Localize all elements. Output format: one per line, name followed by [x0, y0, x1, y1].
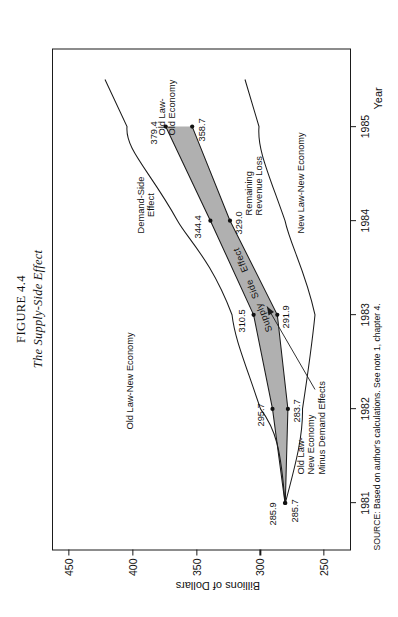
y-tick-250: 250 [318, 558, 330, 576]
x-axis-label: Year [372, 87, 384, 109]
point-label-285-7: 285.7 [290, 499, 300, 522]
point-label-295-7: 295.7 [256, 403, 266, 426]
point-label-285-9: 285.9 [268, 502, 278, 525]
y-tick-400: 400 [127, 558, 139, 576]
y-tickmark-400 [132, 549, 133, 555]
figure-page: FIGURE 4.4 The Supply-Side Effect [0, 0, 398, 617]
y-axis-label: Billions of Dollars [176, 579, 260, 591]
y-tickmark-450 [68, 549, 69, 555]
point-label-329-0: 329.0 [234, 211, 244, 234]
x-tick-1983: 1983 [359, 303, 371, 326]
x-tickmark-1982 [350, 408, 356, 409]
x-tickmark-1981 [350, 502, 356, 503]
figure-number: FIGURE 4.4 [14, 0, 29, 617]
annotation-old-law-new-economy-minus-demand-effects: Old Law- New Economy Minus Demand Effect… [296, 381, 327, 474]
annotation-new-law-new-economy: New Law-New Economy [296, 132, 306, 233]
y-tick-450: 450 [63, 558, 75, 576]
x-tickmark-1985 [350, 125, 356, 126]
y-tickmark-350 [196, 549, 197, 555]
rotated-figure-canvas: FIGURE 4.4 The Supply-Side Effect [0, 0, 398, 617]
y-tickmark-250 [323, 549, 324, 555]
source-note: SOURCE: Based on author's calculations. … [372, 303, 382, 550]
annotation-demand-side-effect: Demand-Side Effect [136, 176, 157, 233]
point-label-283-7: 283.7 [292, 399, 302, 422]
x-tickmark-1983 [350, 314, 356, 315]
annotation-old-law-old-economy: Old Law- Old Economy [157, 79, 178, 135]
plot-area: Old Law-New Economy Demand-Side Effect O… [52, 48, 351, 550]
point-label-344-4: 344.4 [193, 215, 203, 238]
x-tick-1985: 1985 [359, 114, 371, 137]
x-tickmark-1984 [350, 220, 356, 221]
x-tick-1984: 1984 [359, 209, 371, 232]
x-tick-1981: 1981 [359, 491, 371, 514]
figure-title: The Supply-Side Effect [31, 0, 46, 617]
point-label-291-9: 291.9 [281, 305, 291, 328]
y-tick-350: 350 [191, 558, 203, 576]
figure-header: FIGURE 4.4 The Supply-Side Effect [14, 0, 46, 617]
point-label-310-5: 310.5 [237, 309, 247, 332]
point-label-379-4: 379.4 [149, 121, 159, 144]
x-tick-1982: 1982 [359, 397, 371, 420]
y-tick-300: 300 [254, 558, 266, 576]
annotation-old-law-new-economy: Old Law-New Economy [125, 332, 135, 429]
y-tickmark-300 [260, 549, 261, 555]
point-label-358-7: 358.7 [197, 118, 207, 141]
annotation-remaining-revenue-loss: Remaining Revenue Loss [244, 156, 265, 215]
